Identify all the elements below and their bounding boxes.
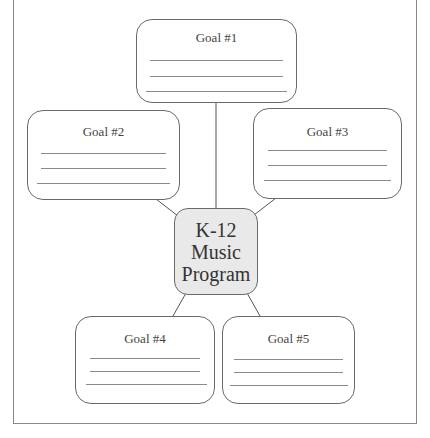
- center-line-3: Program: [182, 263, 251, 285]
- goal-3-title: Goal #3: [254, 124, 401, 140]
- goal-3-blank-line-1[interactable]: [268, 150, 387, 151]
- center-node-k12-music-program: K-12 Music Program: [174, 208, 258, 295]
- goal-1-title: Goal #1: [137, 30, 296, 46]
- center-line-1: K-12: [195, 219, 236, 241]
- connector-goal-4: [173, 293, 186, 316]
- connector-goal-2: [156, 199, 178, 216]
- goal-4-blank-line-2[interactable]: [90, 371, 200, 372]
- goal-2-blank-line-3[interactable]: [37, 183, 170, 184]
- goal-3-box: Goal #3: [253, 108, 402, 199]
- goal-2-blank-line-1[interactable]: [41, 153, 166, 154]
- goal-4-blank-line-1[interactable]: [90, 358, 200, 359]
- goal-1-blank-line-2[interactable]: [150, 76, 283, 77]
- goal-1-blank-line-3[interactable]: [146, 91, 287, 92]
- goal-4-blank-line-3[interactable]: [86, 384, 207, 385]
- goal-1-blank-line-1[interactable]: [150, 60, 283, 61]
- goal-4-box: Goal #4: [75, 316, 215, 404]
- center-line-2: Music: [191, 241, 241, 263]
- goal-1-box: Goal #1: [136, 19, 297, 103]
- goal-5-blank-line-2[interactable]: [234, 372, 343, 373]
- connector-goal-5: [247, 293, 260, 316]
- goal-4-title: Goal #4: [76, 331, 214, 347]
- goal-5-title: Goal #5: [223, 331, 354, 347]
- goal-5-blank-line-1[interactable]: [234, 359, 343, 360]
- goal-5-blank-line-3[interactable]: [230, 385, 348, 386]
- goal-2-title: Goal #2: [28, 124, 179, 140]
- goal-2-box: Goal #2: [27, 110, 180, 200]
- connector-goal-3: [254, 198, 276, 215]
- goal-3-blank-line-2[interactable]: [268, 165, 387, 166]
- goal-5-box: Goal #5: [222, 316, 355, 404]
- goal-2-blank-line-2[interactable]: [41, 168, 166, 169]
- goal-3-blank-line-3[interactable]: [264, 180, 391, 181]
